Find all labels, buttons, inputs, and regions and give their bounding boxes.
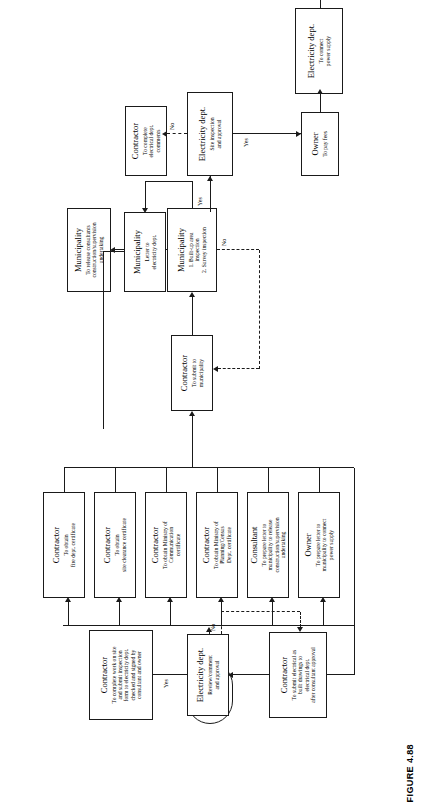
arrowhead-siteinspection-in <box>207 176 213 181</box>
flowchart-connectors-upper: Yes No Yes <box>11 20 411 732</box>
edge-label-inspection-no: No <box>169 123 175 130</box>
edge-label-inspection-yes: Yes <box>243 138 249 147</box>
arrowhead-owner-fees-in <box>296 131 301 137</box>
edge-ownerfees-to-connect <box>320 94 321 112</box>
edge-siteinspection-yes <box>233 133 301 134</box>
arrowhead-connect-in <box>317 89 323 94</box>
figure-caption: FIGURE 4.88 <box>405 744 415 802</box>
edge-label-inspection-yes-in: Yes <box>197 197 203 206</box>
edge-yes-into-siteinspection <box>210 176 211 212</box>
edge-siteinspection-no-v <box>167 133 187 134</box>
arrowhead-comments-in <box>162 131 167 137</box>
edge-connect-to-end <box>320 0 321 8</box>
